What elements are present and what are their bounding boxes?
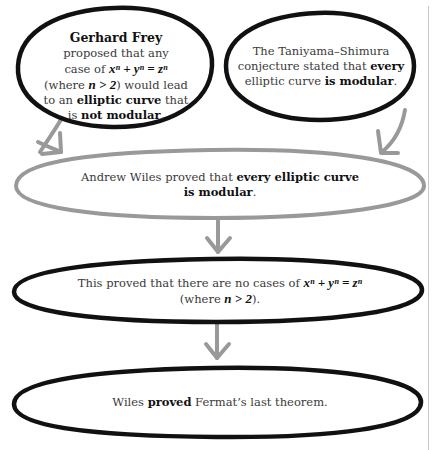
- frey-equation: xⁿ + yⁿ = zⁿ: [109, 61, 168, 76]
- taniyama-line3: elliptic curve is modular.: [236, 74, 406, 89]
- arrow-nocases-to-fermat: [206, 322, 229, 358]
- frey-title: Gerhard Frey: [70, 30, 163, 45]
- arrow-frey-to-wiles: [38, 118, 62, 154]
- taniyama-line1: The Taniyama–Shimura: [236, 44, 406, 59]
- frey-line3: (where n > 2) would lead: [26, 77, 206, 93]
- arrow-wiles-to-nocases: [207, 220, 230, 252]
- taniyama-line2: conjecture stated that every: [236, 59, 406, 74]
- right-divider-line: [428, 6, 429, 450]
- frey-line5: is not modular.: [26, 108, 206, 123]
- frey-line4: to an elliptic curve that: [26, 93, 206, 108]
- node-wiles-modular: Andrew Wiles proved that every elliptic …: [60, 170, 380, 200]
- node-frey: Gerhard Frey proposed that any case of x…: [26, 30, 206, 123]
- frey-line2: case of xⁿ + yⁿ = zⁿ: [26, 61, 206, 77]
- arrow-taniyama-to-wiles: [378, 110, 405, 153]
- node-fermat: Wiles proved Fermat’s last theorem.: [50, 395, 390, 410]
- no-cases-condition: n > 2: [224, 291, 252, 306]
- no-cases-equation: xⁿ + yⁿ = zⁿ: [303, 275, 362, 290]
- frey-line1: proposed that any: [26, 46, 206, 61]
- node-no-cases: This proved that there are no cases of x…: [50, 275, 390, 307]
- node-taniyama: The Taniyama–Shimura conjecture stated t…: [236, 44, 406, 89]
- frey-condition: n > 2: [89, 77, 117, 92]
